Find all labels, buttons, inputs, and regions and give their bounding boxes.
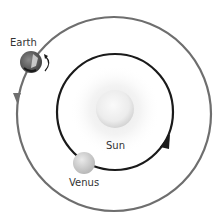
sun-label: Sun <box>106 140 125 151</box>
earth-label: Earth <box>10 37 37 48</box>
venus-label: Venus <box>69 177 99 188</box>
earth-orbit-arrow-icon <box>13 93 21 103</box>
orbit-diagram: Earth Sun Venus <box>0 0 224 222</box>
sun <box>96 90 134 128</box>
venus <box>73 152 95 174</box>
venus-orbit-arrow-icon <box>160 134 170 149</box>
earth <box>20 51 42 73</box>
earth-rotation-arc <box>45 57 49 71</box>
orbit-graphic <box>0 0 224 222</box>
